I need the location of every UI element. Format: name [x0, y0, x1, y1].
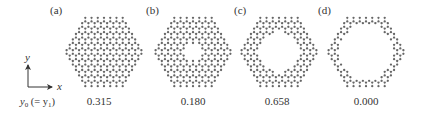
panel-label-c: (c)	[234, 4, 246, 16]
panel-value-c: 0.658	[265, 95, 290, 107]
coordinate-axes-icon: y x	[18, 53, 78, 93]
panel-label-b: (b)	[146, 4, 159, 16]
flake-d	[327, 17, 404, 88]
flake-c	[240, 17, 317, 88]
panel-value-b: 0.180	[181, 95, 206, 107]
x-axis-label: x	[56, 80, 62, 92]
flake-b	[154, 17, 231, 88]
panel-value-a: 0.315	[87, 95, 112, 107]
panel-value-d: 0.000	[354, 95, 379, 107]
y-axis-label: y	[24, 53, 30, 63]
panel-label-a: (a)	[50, 4, 62, 16]
axes-caption: y0 (= y1)	[20, 96, 55, 109]
panel-label-d: (d)	[318, 4, 331, 16]
